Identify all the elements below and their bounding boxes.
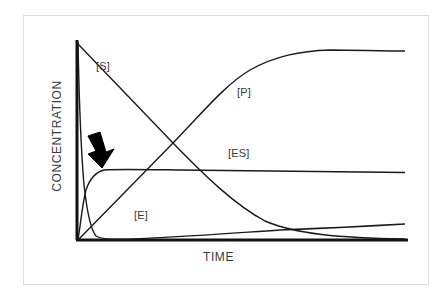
curve-label-substrate: [S] <box>96 60 110 72</box>
curve-enzyme-E <box>78 42 405 239</box>
curve-label-complex: [ES] <box>228 147 250 159</box>
figure-canvas: [S] [P] [ES] [E] TIME CONCENTRATION <box>0 0 448 302</box>
curve-substrate-S <box>78 44 405 239</box>
down-arrow-icon <box>88 132 114 168</box>
curve-label-product: [P] <box>237 86 251 98</box>
curve-product-P <box>79 50 405 239</box>
curve-label-enzyme: [E] <box>134 209 148 221</box>
y-axis-title: CONCENTRATION <box>50 61 64 211</box>
x-axis-title: TIME <box>203 250 234 264</box>
curve-complex-ES <box>78 169 405 239</box>
